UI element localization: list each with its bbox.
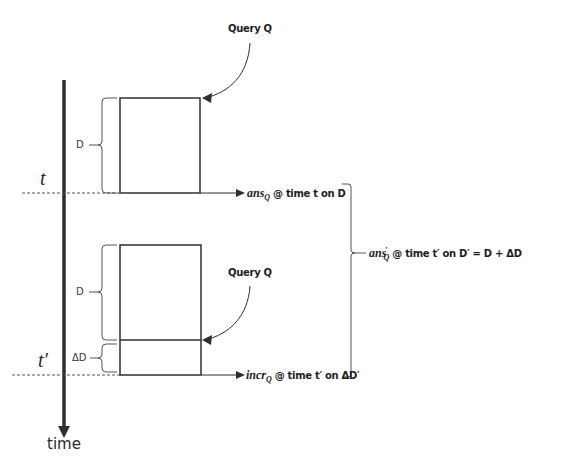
t-prime-label: t′ bbox=[38, 350, 48, 370]
incr-math: incr bbox=[246, 368, 266, 382]
combined-subscript: Q bbox=[384, 253, 389, 262]
ans-text: @ time t on D bbox=[270, 188, 346, 199]
d-bracket-top bbox=[98, 98, 117, 193]
ans-math: ans bbox=[247, 186, 264, 200]
combined-text: @ time t′ on D′ = D + ΔD bbox=[389, 248, 522, 259]
query-arrow-top bbox=[205, 43, 250, 98]
incr-text: @ time t′ on ΔD′ bbox=[272, 370, 360, 381]
incr-annotation: incrQ @ time t′ on ΔD′ bbox=[246, 369, 359, 381]
query-arrow-bottom bbox=[205, 286, 250, 340]
time-axis bbox=[58, 80, 70, 438]
query-arrowhead-top-icon bbox=[202, 93, 212, 103]
query-arrowhead-bottom-icon bbox=[202, 335, 212, 345]
t-label: t bbox=[40, 168, 46, 188]
data-block-d bbox=[120, 98, 200, 193]
d-bracket-bottom bbox=[98, 245, 117, 340]
time-axis-label: time bbox=[47, 437, 81, 452]
d-label-bottom: D bbox=[76, 287, 84, 297]
incr-subscript: Q bbox=[266, 375, 271, 384]
delta-d-label: ΔD bbox=[72, 353, 87, 363]
ans-subscript: Q bbox=[264, 193, 269, 202]
combined-annotation: ans′Q @ time t′ on D′ = D + ΔD bbox=[369, 247, 522, 259]
query-q-label-top: Query Q bbox=[228, 24, 272, 34]
ans-annotation: ansQ @ time t on D bbox=[247, 187, 346, 199]
data-block-d-prime bbox=[120, 245, 201, 375]
combined-bracket bbox=[342, 184, 355, 377]
delta-d-bracket bbox=[98, 344, 117, 372]
d-label-top: D bbox=[76, 140, 84, 150]
query-q-label-bottom: Query Q bbox=[228, 268, 272, 278]
ans-arrowhead-icon bbox=[236, 189, 245, 197]
incr-arrowhead-icon bbox=[236, 371, 245, 379]
